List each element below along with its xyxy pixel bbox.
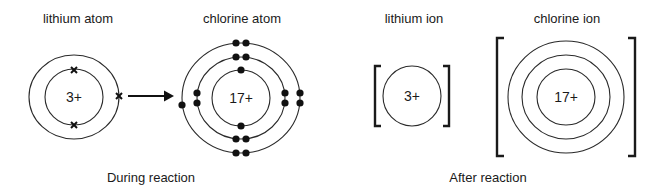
right-bracket: [628, 38, 635, 156]
electron-dot-icon: [193, 89, 200, 96]
electron-dot-icon: [232, 53, 239, 60]
chlorine-atom: 17+: [178, 39, 303, 156]
electron-dot-icon: [237, 122, 244, 129]
electron-dot-icon: [193, 99, 200, 106]
lithium-ion: 3+: [375, 66, 449, 126]
label-lithium-ion: lithium ion: [385, 11, 444, 26]
lithium-atom-nucleus: 3+: [66, 89, 82, 105]
electron-dot-icon: [232, 149, 239, 156]
electron-dot-icon: [242, 149, 249, 156]
chlorine-ion-nucleus: 17+: [554, 89, 578, 105]
label-chlorine-atom: chlorine atom: [203, 11, 281, 26]
label-after-reaction: After reaction: [449, 170, 526, 185]
electron-dot-icon: [281, 89, 288, 96]
electron-dot-icon: [296, 89, 303, 96]
electron-dot-icon: [232, 135, 239, 142]
electron-dot-icon: [242, 39, 249, 46]
label-chlorine-ion: chlorine ion: [534, 11, 601, 26]
ionic-bonding-diagram: lithium atom chlorine atom lithium ion c…: [0, 0, 666, 194]
lithium-ion-nucleus: 3+: [404, 88, 420, 104]
label-lithium-atom: lithium atom: [43, 11, 113, 26]
electron-cross-icon: [71, 67, 77, 73]
chlorine-ion: 17+: [497, 38, 635, 156]
left-bracket: [497, 38, 504, 156]
right-bracket: [443, 66, 449, 126]
left-bracket: [375, 66, 381, 126]
electron-dot-icon: [242, 135, 249, 142]
lithium-atom: 3+: [29, 55, 122, 139]
electron-dot-icon: [237, 66, 244, 73]
electron-dot-icon: [232, 39, 239, 46]
electron-dot-icon: [178, 101, 185, 108]
electron-transfer-arrow-icon: [128, 91, 174, 102]
chlorine-atom-nucleus: 17+: [229, 90, 253, 106]
electron-dot-icon: [242, 53, 249, 60]
electron-dot-icon: [281, 99, 288, 106]
electron-dot-icon: [296, 99, 303, 106]
label-during-reaction: During reaction: [107, 170, 195, 185]
